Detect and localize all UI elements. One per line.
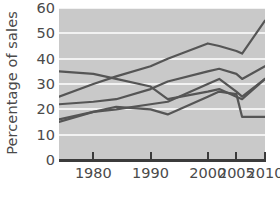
y-axis-label-container: Percentage of sales	[0, 0, 24, 165]
x-axis-tick	[92, 152, 94, 160]
y-axis-tick-label: 50	[37, 26, 55, 41]
y-axis-tick-label: 10	[37, 127, 55, 142]
y-axis-tick-label: 0	[46, 153, 55, 168]
y-axis-tick-labels: 0102030405060	[22, 0, 57, 197]
line-chart-figure: Percentage of sales 0102030405060 198019…	[0, 0, 280, 197]
x-axis-tick	[207, 152, 209, 160]
y-axis-tick-label: 40	[37, 51, 55, 66]
y-axis-tick-label: 20	[37, 102, 55, 117]
data-lines	[59, 8, 265, 160]
x-axis-tick	[150, 152, 152, 160]
data-line	[59, 21, 265, 97]
y-axis-label: Percentage of sales	[4, 11, 20, 155]
y-axis-tick-label: 30	[37, 77, 55, 92]
plot-area	[59, 8, 265, 160]
x-axis-tick	[235, 152, 237, 160]
x-axis-tick	[264, 152, 266, 160]
x-axis-tick-label: 1990	[132, 165, 169, 181]
y-axis-tick-label: 60	[37, 1, 55, 16]
x-axis-tick-label: 2010	[247, 165, 280, 181]
x-axis-tick-label: 1980	[75, 165, 112, 181]
